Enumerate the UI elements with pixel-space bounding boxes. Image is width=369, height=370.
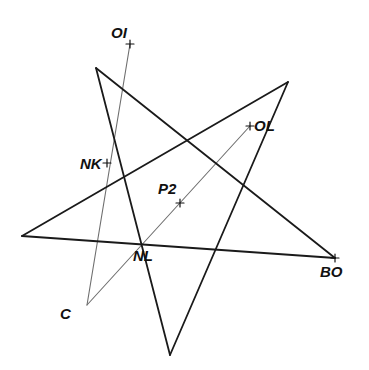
- point-labels: OI OL NK P2 NL BO C: [60, 24, 343, 322]
- construction-line-c-ol: [87, 126, 250, 305]
- point-markers: [103, 40, 339, 262]
- geometry-diagram: OI OL NK P2 NL BO C: [0, 0, 369, 370]
- construction-lines: [87, 44, 250, 305]
- star-edge: [96, 68, 335, 258]
- label-p2: P2: [158, 180, 177, 197]
- label-nl: NL: [133, 247, 153, 264]
- star-edge: [96, 68, 170, 355]
- cross-marker-icon: [126, 40, 134, 48]
- star-edge: [22, 236, 335, 258]
- label-nk: NK: [80, 155, 103, 172]
- label-oi: OI: [111, 24, 128, 41]
- star-edge: [22, 82, 288, 236]
- label-bo: BO: [320, 263, 343, 280]
- label-ol: OL: [254, 117, 275, 134]
- label-c: C: [60, 305, 72, 322]
- diagram-svg: OI OL NK P2 NL BO C: [0, 0, 369, 370]
